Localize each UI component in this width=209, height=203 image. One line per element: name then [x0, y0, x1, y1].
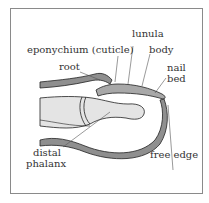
nail-plate: [96, 84, 165, 99]
label-distal: distal: [33, 147, 61, 158]
label-free-edge: free edge: [150, 149, 198, 160]
label-nail: nail: [167, 62, 186, 73]
label-lunula: lunula: [132, 28, 164, 39]
label-eponychium: eponychium (cuticle): [27, 44, 134, 55]
distal-phalanx-bone: [40, 97, 144, 129]
fingertip-cross-section: [0, 0, 209, 203]
label-body: body: [149, 44, 173, 55]
upper-skin: [40, 73, 112, 88]
label-bed: bed: [167, 73, 186, 84]
label-phalanx: phalanx: [26, 158, 66, 169]
label-root: root: [59, 61, 80, 72]
